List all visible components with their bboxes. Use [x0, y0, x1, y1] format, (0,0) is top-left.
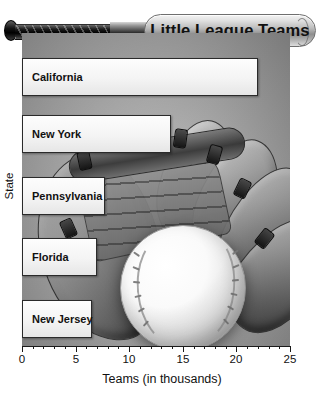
bar-pennsylvania: Pennsylvania	[22, 177, 105, 215]
bar-florida: Florida	[22, 238, 97, 276]
chart-figure: Little League Teams	[0, 0, 324, 398]
x-tick-minor	[194, 346, 195, 349]
bar-label-pennsylvania: Pennsylvania	[23, 190, 102, 202]
x-axis-line	[22, 346, 290, 347]
y-axis-title: State	[3, 160, 15, 212]
x-tick-label-20: 20	[230, 353, 243, 365]
bar-new-york: New York	[22, 115, 171, 153]
x-tick-minor	[118, 346, 119, 349]
x-tick-minor	[161, 346, 162, 349]
x-tick-minor	[258, 346, 259, 349]
x-tick-minor	[247, 346, 248, 349]
bar-label-florida: Florida	[23, 251, 69, 263]
x-tick-minor	[97, 346, 98, 349]
x-tick-minor	[86, 346, 87, 349]
x-tick-label-5: 5	[73, 353, 79, 365]
x-tick-minor	[54, 346, 55, 349]
x-axis-title: Teams (in thousands)	[0, 372, 324, 386]
x-tick-minor	[279, 346, 280, 349]
x-tick-minor	[43, 346, 44, 349]
x-tick-minor	[226, 346, 227, 349]
x-tick-minor	[204, 346, 205, 349]
x-tick-20	[236, 346, 237, 352]
bar-california: California	[22, 58, 258, 96]
x-tick-15	[183, 346, 184, 352]
bar-series: California New York Pennsylvania Florida…	[0, 0, 324, 398]
x-tick-label-0: 0	[19, 353, 25, 365]
x-tick-0	[22, 346, 23, 352]
x-tick-label-25: 25	[284, 353, 297, 365]
x-tick-label-15: 15	[177, 353, 190, 365]
x-tick-minor	[33, 346, 34, 349]
x-tick-minor	[215, 346, 216, 349]
x-tick-label-10: 10	[123, 353, 136, 365]
bar-label-california: California	[23, 71, 83, 83]
bar-label-new-jersey: New Jersey	[23, 313, 93, 325]
x-tick-minor	[151, 346, 152, 349]
x-tick-10	[129, 346, 130, 352]
x-tick-minor	[269, 346, 270, 349]
bar-label-new-york: New York	[23, 128, 81, 140]
x-tick-minor	[65, 346, 66, 349]
x-tick-minor	[108, 346, 109, 349]
x-tick-25	[290, 346, 291, 352]
x-tick-minor	[172, 346, 173, 349]
x-tick-5	[76, 346, 77, 352]
x-tick-minor	[140, 346, 141, 349]
bar-new-jersey: New Jersey	[22, 300, 92, 338]
